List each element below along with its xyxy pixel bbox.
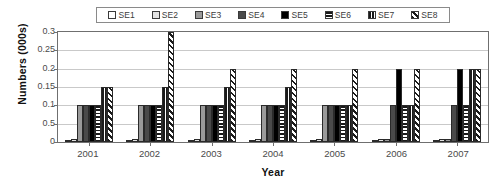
legend-item-se6[interactable]: SE6 — [325, 10, 351, 20]
y-axis-tick-label: 0.15 — [37, 81, 55, 91]
legend-item-label: SE1 — [118, 10, 134, 20]
bar-se8-2007 — [475, 69, 481, 142]
y-axis-tick-label: 0.1 — [42, 99, 55, 109]
legend-item-label: SE7 — [378, 10, 394, 20]
bar-groups — [58, 32, 488, 142]
x-axis-title: Year — [57, 166, 489, 178]
legend-item-se2[interactable]: SE2 — [152, 10, 178, 20]
bar-group-2001 — [58, 32, 119, 142]
legend-swatch-light-gray-icon — [152, 11, 160, 19]
legend-item-se4[interactable]: SE4 — [238, 10, 264, 20]
x-axis-tick-labels: 2001200220032004200520062007 — [57, 148, 489, 159]
y-axis-tick-label: 0.3 — [42, 26, 55, 36]
bar-se8-2005 — [352, 69, 358, 142]
legend-swatch-vertical-lines-icon — [368, 11, 376, 19]
legend-item-label: SE6 — [335, 10, 351, 20]
x-axis-tick-mark — [150, 142, 151, 146]
bar-se8-2004 — [291, 69, 297, 142]
y-axis-tick-label: 0.25 — [37, 44, 55, 54]
legend-swatch-dark-gray-icon — [238, 11, 246, 19]
bar-group-2004 — [242, 32, 303, 142]
y-axis-tick-label: 0.2 — [42, 63, 55, 73]
bar-se8-2001 — [107, 87, 113, 142]
legend-swatch-black-icon — [281, 11, 289, 19]
x-axis-tick-label: 2007 — [427, 148, 489, 159]
y-axis-tick-labels: 0.30.250.20.150.10.50 — [22, 26, 55, 148]
legend-item-se8[interactable]: SE8 — [411, 10, 437, 20]
y-axis-tick-label: 0 — [50, 136, 55, 146]
legend-swatch-horizontal-lines-icon — [325, 11, 333, 19]
bar-group-2002 — [119, 32, 180, 142]
legend-item-label: SE3 — [205, 10, 221, 20]
x-axis-tick-label: 2004 — [242, 148, 304, 159]
x-axis-tick-mark — [457, 142, 458, 146]
y-axis-tick-mark — [54, 142, 58, 143]
legend-item-se3[interactable]: SE3 — [195, 10, 221, 20]
x-axis-tick-label: 2003 — [180, 148, 242, 159]
bar-se8-2003 — [230, 69, 236, 142]
x-axis-tick-mark — [212, 142, 213, 146]
legend-swatch-mid-gray-icon — [195, 11, 203, 19]
legend-item-se7[interactable]: SE7 — [368, 10, 394, 20]
x-axis-tick-mark — [273, 142, 274, 146]
legend-swatch-white-icon — [108, 11, 116, 19]
x-axis-tick-label: 2001 — [57, 148, 119, 159]
x-axis-tick-mark — [89, 142, 90, 146]
bar-group-2003 — [181, 32, 242, 142]
x-axis-tick-label: 2002 — [119, 148, 181, 159]
x-axis-tick-mark — [396, 142, 397, 146]
x-axis-tick-label: 2006 — [366, 148, 428, 159]
x-axis-tick-mark — [334, 142, 335, 146]
legend-swatch-diagonal-hatch-icon — [411, 11, 419, 19]
legend-item-label: SE4 — [248, 10, 264, 20]
plot-area — [57, 31, 489, 143]
legend-item-label: SE2 — [162, 10, 178, 20]
legend-item-se5[interactable]: SE5 — [281, 10, 307, 20]
chart-legend: SE1SE2SE3SE4SE5SE6SE7SE8 — [96, 7, 450, 23]
bar-se8-2002 — [168, 32, 174, 142]
legend-item-label: SE8 — [421, 10, 437, 20]
y-axis-tick-label: 0.5 — [42, 118, 55, 128]
bar-group-2007 — [427, 32, 488, 142]
bar-se8-2006 — [414, 69, 420, 142]
legend-item-se1[interactable]: SE1 — [108, 10, 134, 20]
x-axis-tick-label: 2005 — [304, 148, 366, 159]
bar-group-2005 — [304, 32, 365, 142]
legend-item-label: SE5 — [291, 10, 307, 20]
bar-group-2006 — [365, 32, 426, 142]
